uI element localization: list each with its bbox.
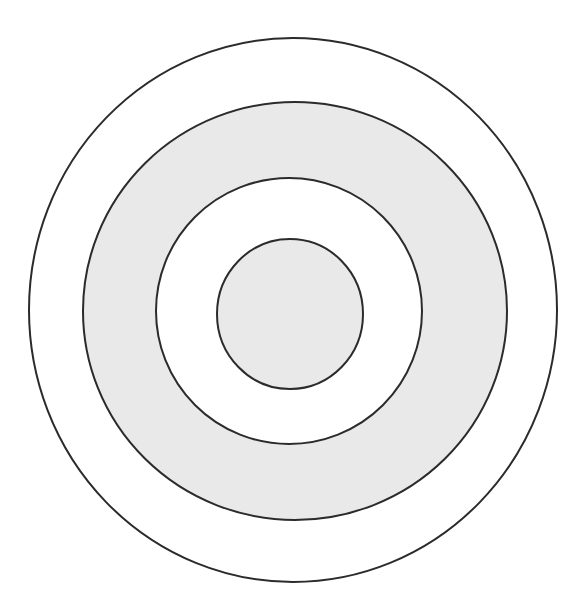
circle-innermost: [217, 239, 363, 389]
concentric-circles-figure: [0, 0, 584, 616]
figure-canvas: [0, 0, 584, 616]
